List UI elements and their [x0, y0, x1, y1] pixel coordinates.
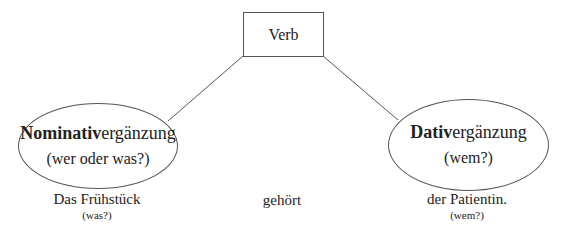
example-verb-word: gehört — [242, 191, 322, 209]
verb-label: Verb — [268, 26, 298, 44]
nominativ-title-rest: ergänzung — [101, 123, 176, 143]
nominativ-title: Nominativergänzung — [20, 122, 176, 144]
dativ-title-rest: ergänzung — [452, 122, 527, 142]
example-dative-question: (wem?) — [407, 208, 527, 222]
example-verb: gehört — [242, 191, 322, 209]
verb-box: Verb — [243, 12, 324, 57]
example-subject-word: Das Frühstück — [37, 190, 157, 208]
example-subject-question: (was?) — [37, 208, 157, 222]
nominativ-ellipse: Nominativergänzung (wer oder was?) — [18, 103, 178, 189]
nominativ-title-bold: Nominativ — [20, 123, 101, 143]
dativ-title-bold: Dativ — [410, 122, 452, 142]
example-dative-word: der Patientin. — [407, 190, 527, 208]
dativ-question: (wem?) — [444, 147, 493, 169]
connector-verb-to-nominativ — [168, 56, 243, 121]
dativ-ellipse: Dativergänzung (wem?) — [388, 99, 549, 191]
nominativ-question: (wer oder was?) — [46, 148, 149, 170]
example-dative: der Patientin. (wem?) — [407, 190, 527, 222]
example-subject: Das Frühstück (was?) — [37, 190, 157, 222]
dativ-title: Dativergänzung — [410, 121, 527, 143]
connector-verb-to-dativ — [323, 56, 398, 120]
